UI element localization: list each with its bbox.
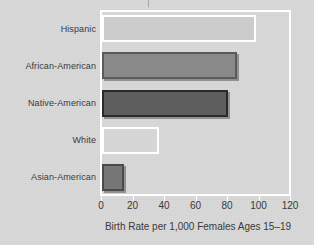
category-label-native-american: Native-American — [0, 98, 96, 108]
chart-figure: HispanicAfrican-AmericanNative-AmericanW… — [0, 0, 314, 245]
x-tick-label-40: 40 — [158, 200, 169, 211]
category-label-african-american: African-American — [0, 61, 96, 71]
x-tick-labels: 020406080100120 — [0, 200, 314, 216]
x-tick-label-80: 80 — [221, 200, 232, 211]
x-tick-label-60: 60 — [190, 200, 201, 211]
x-tick-label-100: 100 — [250, 200, 267, 211]
bar-african-american — [102, 52, 237, 79]
x-tick-label-20: 20 — [127, 200, 138, 211]
bar-native-american — [102, 90, 228, 117]
bar-white — [102, 127, 159, 154]
bar-asian-american — [102, 164, 124, 191]
top-tick-artifact — [148, 0, 149, 7]
category-label-hispanic: Hispanic — [0, 24, 96, 34]
bar-hispanic — [102, 15, 256, 42]
x-tick-label-0: 0 — [98, 200, 104, 211]
category-axis: HispanicAfrican-AmericanNative-AmericanW… — [0, 10, 96, 196]
category-label-white: White — [0, 135, 96, 145]
bars-layer — [102, 10, 291, 196]
x-axis-title: Birth Rate per 1,000 Females Ages 15–19 — [100, 221, 296, 232]
x-tick-label-120: 120 — [282, 200, 299, 211]
category-label-asian-american: Asian-American — [0, 172, 96, 182]
